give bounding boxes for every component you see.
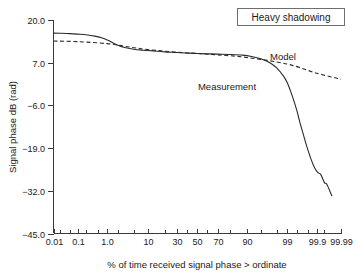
measurement-series-label: Measurement: [198, 81, 256, 92]
axes-group: [54, 20, 342, 234]
x-tick-label: 70: [213, 237, 223, 247]
y-tick-label: −19.0: [22, 144, 45, 154]
chart-figure: 20.07.0−6.0−19.0−32.0−45.0 0.010.11.0103…: [0, 0, 360, 276]
y-tick-label: −32.0: [22, 187, 45, 197]
x-axis-tick-labels: 0.010.11.010305070909999.999.99: [46, 237, 353, 247]
x-tick-label: 0.1: [72, 237, 85, 247]
model-series-label: Model: [270, 51, 296, 62]
x-axis-ticks: [55, 229, 342, 234]
x-axis-title: % of time received signal phase > ordina…: [107, 259, 286, 270]
x-tick-label: 1.0: [101, 237, 114, 247]
y-tick-label: 20.0: [27, 16, 45, 26]
y-tick-label: 7.0: [32, 59, 45, 69]
title-box-label: Heavy shadowing: [252, 12, 331, 23]
y-tick-label: −6.0: [27, 101, 45, 111]
title-box: Heavy shadowing: [238, 9, 345, 26]
x-tick-label: 99.9: [309, 237, 327, 247]
x-tick-label: 99: [282, 237, 292, 247]
x-tick-label: 99.99: [330, 237, 353, 247]
x-tick-label: 50: [192, 237, 202, 247]
signal-phase-probability-chart: 20.07.0−6.0−19.0−32.0−45.0 0.010.11.0103…: [0, 0, 360, 276]
x-tick-label: 90: [242, 237, 252, 247]
y-axis-ticks: [48, 21, 54, 235]
y-axis-title: Signal phase dB (rad): [7, 81, 18, 173]
series-line-model: [54, 41, 342, 79]
x-tick-label: 0.01: [46, 237, 64, 247]
y-tick-label: −45.0: [22, 230, 45, 240]
x-tick-label: 30: [172, 237, 182, 247]
x-axis-minor-ticks: [61, 230, 325, 234]
y-axis-tick-labels: 20.07.0−6.0−19.0−32.0−45.0: [22, 16, 45, 240]
x-tick-label: 10: [143, 237, 153, 247]
